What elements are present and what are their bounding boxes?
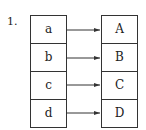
mapping-arrows: [0, 0, 146, 130]
